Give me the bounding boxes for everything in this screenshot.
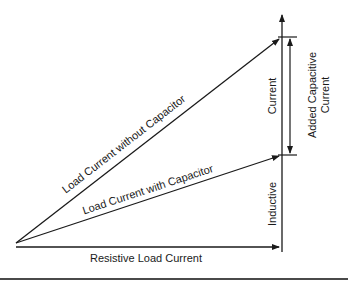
label-added-capacitive-current: Current — [319, 77, 331, 114]
label-inductive: Inductive — [266, 182, 278, 226]
label-current: Current — [266, 78, 278, 115]
label-load-with-capacitor: Load Current with Capacitor — [81, 162, 215, 216]
phasor-diagram: Load Current without Capacitor Load Curr… — [0, 0, 348, 281]
label-resistive-current: Resistive Load Current — [90, 252, 202, 264]
label-added-capacitive: Added Capacitive — [306, 52, 318, 138]
load-with-capacitor-vector — [16, 156, 279, 243]
bottom-rule — [0, 278, 348, 280]
load-without-capacitor-vector — [16, 39, 279, 243]
